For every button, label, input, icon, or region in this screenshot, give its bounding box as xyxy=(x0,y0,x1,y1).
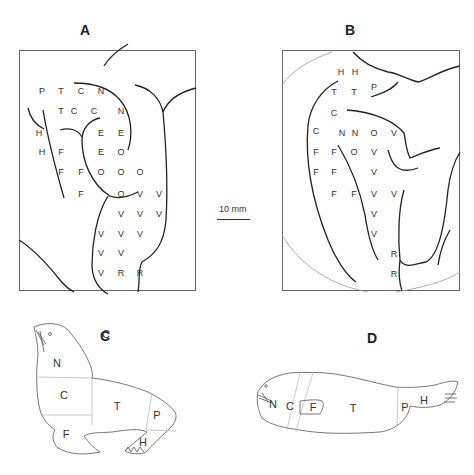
panel-c-region-letter: P xyxy=(153,409,160,421)
panel-a-region-letter: F xyxy=(78,167,84,177)
panel-d-region-letter: N xyxy=(269,398,277,410)
panel-b-region-letter: O xyxy=(350,147,357,157)
panel-b-region-letter: C xyxy=(331,108,338,118)
panel-a-region-letter: O xyxy=(117,147,124,157)
panel-c-region-letter: F xyxy=(63,428,70,440)
panel-a-region-letter: O xyxy=(117,189,124,199)
panel-a-region-letter: O xyxy=(117,167,124,177)
panel-a-region-letter: E xyxy=(98,147,104,157)
panel-a-region-letter: V xyxy=(98,268,104,278)
panel-b-region-letter: V xyxy=(371,229,377,239)
panel-a-region-letter: V xyxy=(98,229,104,239)
panel-b-region-letter: H xyxy=(338,67,345,77)
panel-b-region-letter: F xyxy=(331,189,337,199)
panel-d-region-letter: H xyxy=(420,394,428,406)
panel-b-region-letter: F xyxy=(313,147,319,157)
panel-a-region-letter: C xyxy=(78,86,85,96)
panel-a-region-letter: F xyxy=(58,147,64,157)
panel-c-region-letter: T xyxy=(114,400,121,412)
panel-a-region-letter: V xyxy=(118,209,124,219)
panel-a-region-letter: H xyxy=(39,147,46,157)
panel-b-region-letter: T xyxy=(351,87,357,97)
panel-a-region-letter: O xyxy=(97,167,104,177)
panel-b-region-letter: F xyxy=(351,189,357,199)
panel-a-region-letter: R xyxy=(118,268,125,278)
panel-a-region-letter: V xyxy=(156,209,162,219)
panel-b-region-letter: P xyxy=(371,82,377,92)
panel-a-region-letter: T xyxy=(58,106,64,116)
panel-d-region-letter: T xyxy=(350,402,357,414)
panel-d-region-letter: P xyxy=(401,401,408,413)
panel-a-region-letter: V xyxy=(137,209,143,219)
panel-b-region-letter: R xyxy=(391,249,398,259)
panel-b-region-letter: F xyxy=(331,147,337,157)
panel-b-region-letter: V xyxy=(391,128,397,138)
region-letters-layer: PTCNTCCNHEEHFEOFFOOOFOVVVVVVVVVVVRRHHTTP… xyxy=(0,0,474,475)
panel-d-region-letter: F xyxy=(310,401,317,413)
panel-b-region-letter: V xyxy=(371,167,377,177)
panel-b-region-letter: F xyxy=(313,167,319,177)
panel-c-region-letter: H xyxy=(139,436,147,448)
panel-a-region-letter: N xyxy=(118,106,125,116)
panel-a-region-letter: P xyxy=(39,86,45,96)
panel-d-region-letter: C xyxy=(286,400,294,412)
panel-a-region-letter: C xyxy=(91,106,98,116)
panel-a-region-letter: V xyxy=(156,189,162,199)
panel-a-region-letter: R xyxy=(137,268,144,278)
panel-a-region-letter: F xyxy=(78,189,84,199)
panel-a-region-letter: C xyxy=(71,106,78,116)
panel-b-region-letter: F xyxy=(331,167,337,177)
panel-a-region-letter: F xyxy=(58,167,64,177)
panel-a-region-letter: N xyxy=(98,86,105,96)
panel-b-region-letter: C xyxy=(313,126,320,136)
panel-b-region-letter: H xyxy=(352,67,359,77)
panel-a-region-letter: V xyxy=(137,229,143,239)
panel-b-region-letter: V xyxy=(371,189,377,199)
panel-b-region-letter: V xyxy=(371,147,377,157)
panel-b-region-letter: R xyxy=(391,269,398,279)
panel-a-region-letter: O xyxy=(136,167,143,177)
panel-c-region-letter: N xyxy=(53,357,61,369)
panel-a-region-letter: E xyxy=(118,128,124,138)
panel-b-region-letter: O xyxy=(370,128,377,138)
panel-c-region-letter: C xyxy=(60,389,68,401)
panel-b-region-letter: V xyxy=(391,189,397,199)
panel-a-region-letter: H xyxy=(36,128,43,138)
panel-b-region-letter: V xyxy=(371,209,377,219)
panel-b-region-letter: N xyxy=(339,128,346,138)
panel-a-region-letter: V xyxy=(98,248,104,258)
panel-a-region-letter: E xyxy=(98,128,104,138)
panel-a-region-letter: T xyxy=(58,86,64,96)
panel-b-region-letter: T xyxy=(331,87,337,97)
panel-a-region-letter: V xyxy=(118,229,124,239)
panel-a-region-letter: V xyxy=(137,189,143,199)
panel-a-region-letter: V xyxy=(118,248,124,258)
panel-b-region-letter: N xyxy=(352,128,359,138)
